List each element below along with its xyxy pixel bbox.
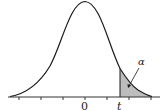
alpha-pointer-arrow <box>129 68 139 86</box>
tick-label-t: t <box>117 101 121 111</box>
alpha-label: α <box>138 57 145 67</box>
tick-label-zero: 0 <box>81 101 88 111</box>
